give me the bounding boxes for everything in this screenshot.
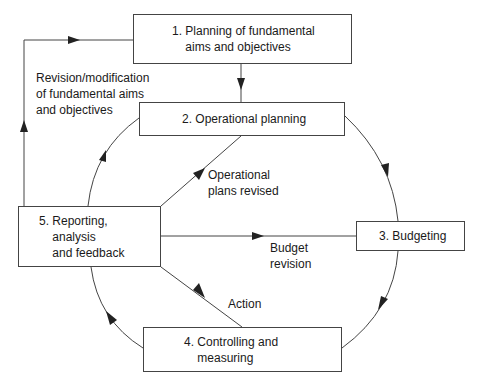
node-reporting-analysis-feedback: 5. Reporting, analysis and feedback [18, 206, 161, 267]
arrow-up-icon [20, 120, 28, 132]
arc-5-to-2 [88, 118, 139, 206]
arrow-diag-icon [193, 168, 205, 180]
arrow-right-icon [252, 232, 264, 240]
node-label: 3. Budgeting [379, 228, 446, 244]
arrow-arc-icon [378, 296, 388, 310]
arrow-right-icon [68, 36, 80, 44]
node-label: 4. Controlling and measuring [184, 334, 278, 366]
arrow-arc-icon [381, 163, 389, 177]
arrow-arc-icon [99, 150, 106, 162]
arrow-arc-icon [106, 311, 117, 325]
node-planning-fundamental-aims: 1. Planning of fundamental aims and obje… [133, 14, 352, 64]
edge-label-revision: Revision/modification of fundamental aim… [36, 70, 149, 118]
arc-2-to-3 [345, 116, 398, 221]
node-budgeting: 3. Budgeting [356, 221, 465, 251]
edge-label-action: Action [228, 296, 261, 312]
arc-4-to-5 [91, 267, 143, 348]
node-label: 5. Reporting, analysis and feedback [39, 213, 124, 261]
arc-3-to-4 [342, 251, 398, 348]
edge-label-operational-plans-revised: Operational plans revised [208, 167, 279, 199]
node-operational-planning: 2. Operational planning [139, 102, 345, 136]
edge-label-budget-revision: Budget revision [270, 240, 311, 272]
edge-5-to-1 [24, 40, 133, 206]
node-label: 2. Operational planning [182, 111, 306, 127]
node-label: 1. Planning of fundamental aims and obje… [172, 23, 315, 55]
arrow-down-icon [237, 78, 245, 90]
node-controlling-measuring: 4. Controlling and measuring [143, 327, 342, 372]
